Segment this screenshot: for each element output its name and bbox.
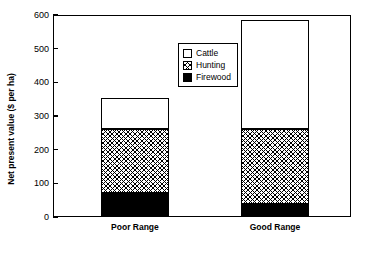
y-tick-mark [53, 82, 58, 84]
bar-segment-cattle [241, 20, 309, 129]
legend-label-hunting: Hunting [196, 60, 225, 70]
y-tick-label-text: 200 [34, 145, 53, 155]
y-tick-label: 300 [0, 110, 53, 122]
y-tick-label-text: 300 [34, 111, 53, 121]
bar-segment-hunting [101, 129, 169, 194]
legend-label-cattle: Cattle [196, 48, 218, 58]
y-tick-label: 0 [0, 211, 53, 223]
legend-swatch-hunting-icon [183, 61, 192, 70]
legend-swatch-cattle-icon [183, 49, 192, 58]
y-tick-mark [53, 149, 58, 151]
y-tick-mark [53, 183, 58, 185]
y-tick-label: 500 [0, 43, 53, 55]
y-tick-label: 400 [0, 76, 53, 88]
bar-segment-cattle [101, 98, 169, 129]
bar-poor-range [101, 15, 169, 217]
x-axis-label-good-range: Good Range [225, 222, 325, 232]
legend-item-hunting: Hunting [183, 59, 231, 71]
legend-item-firewood: Firewood [183, 71, 231, 83]
y-tick-mark [53, 48, 58, 50]
y-tick-label: 200 [0, 144, 53, 156]
chart-container: Net present value ($ per ha) 01002003004… [0, 0, 370, 258]
y-tick-mark [53, 14, 58, 16]
y-tick-label-text: 0 [44, 212, 53, 222]
bar-good-range [241, 15, 309, 217]
bar-segment-firewood [101, 193, 169, 217]
legend-swatch-firewood-icon [183, 73, 192, 82]
y-tick-label-text: 600 [34, 10, 53, 20]
y-tick-label-text: 100 [34, 178, 53, 188]
legend-item-cattle: Cattle [183, 47, 231, 59]
legend-label-firewood: Firewood [196, 72, 231, 82]
bar-segment-firewood [241, 204, 309, 217]
y-tick-label-text: 500 [34, 44, 53, 54]
y-tick-label: 100 [0, 177, 53, 189]
x-axis-label-poor-range: Poor Range [85, 222, 185, 232]
y-tick-mark [53, 115, 58, 117]
y-tick-label-text: 400 [34, 77, 53, 87]
legend: Cattle Hunting Firewood [178, 43, 238, 87]
bar-segment-hunting [241, 129, 309, 203]
y-tick-mark [53, 216, 58, 218]
y-tick-label: 600 [0, 9, 53, 21]
